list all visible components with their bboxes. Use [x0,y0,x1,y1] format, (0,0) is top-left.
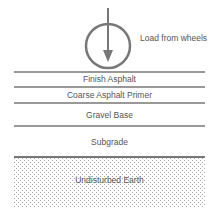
layer-subgrade: Subgrade [14,137,205,147]
layer-coarse-asphalt-primer: Coarse Asphalt Primer [14,90,205,100]
load-label: Load from wheels [140,33,207,43]
layer-gravel-base: Gravel Base [14,110,205,120]
layer-undisturbed-earth: Undisturbed Earth [14,175,205,185]
layer-finish-asphalt: Finish Asphalt [14,74,205,84]
load-arrow-icon [103,8,113,62]
